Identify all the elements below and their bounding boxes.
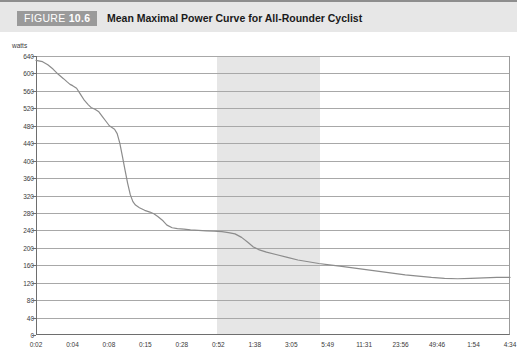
y-axis-tick-label: 40 xyxy=(4,315,34,322)
x-axis-tick-label: 1:38 xyxy=(248,341,261,348)
y-axis-tick-mark xyxy=(32,196,36,197)
y-axis-tick-mark xyxy=(32,318,36,319)
x-axis-tick-label: 49:46 xyxy=(429,341,445,348)
y-axis-tick-mark xyxy=(32,73,36,74)
x-axis-tick-label: 0:15 xyxy=(139,341,152,348)
x-axis-tick-label: 11:31 xyxy=(356,341,372,348)
y-axis-tick-mark xyxy=(32,143,36,144)
figure-header: FIGURE 10.6 Mean Maximal Power Curve for… xyxy=(0,0,517,34)
y-axis-tick-label: 640 xyxy=(4,53,34,60)
x-axis-tick-label: 5:49 xyxy=(321,341,334,348)
y-axis-tick-label: 520 xyxy=(4,105,34,112)
x-axis-tick-label: 0:04 xyxy=(66,341,79,348)
x-axis-labels: 0:020:040:080:150:280:521:383:055:4911:3… xyxy=(0,32,517,52)
y-axis-tick-label: 320 xyxy=(4,193,34,200)
x-axis-tick-label: 0:52 xyxy=(212,341,225,348)
y-axis-tick-label: 440 xyxy=(4,140,34,147)
y-axis-tick-label: 120 xyxy=(4,280,34,287)
figure-badge: FIGURE 10.6 xyxy=(17,11,97,26)
plot-region xyxy=(36,56,510,335)
y-axis-tick-label: 0 xyxy=(4,332,34,339)
x-axis-tick-label: 1:54 xyxy=(467,341,480,348)
y-axis-tick-label: 560 xyxy=(4,88,34,95)
y-axis-tick-mark xyxy=(32,265,36,266)
x-axis-tick-label: 0:08 xyxy=(103,341,116,348)
x-axis-tick-label: 0:28 xyxy=(176,341,189,348)
y-axis-tick-label: 400 xyxy=(4,158,34,165)
x-axis-tick-label: 3:05 xyxy=(285,341,298,348)
y-axis-tick-label: 480 xyxy=(4,123,34,130)
y-axis-tick-label: 80 xyxy=(4,297,34,304)
x-axis-tick-label: 0:02 xyxy=(30,341,43,348)
y-axis-tick-mark xyxy=(32,161,36,162)
figure-number-label: 10.6 xyxy=(69,12,91,24)
x-axis-tick-label: 23:56 xyxy=(392,341,408,348)
y-axis-tick-mark xyxy=(32,248,36,249)
y-axis-tick-label: 600 xyxy=(4,70,34,77)
y-axis-tick-mark xyxy=(32,108,36,109)
figure-container: FIGURE 10.6 Mean Maximal Power Curve for… xyxy=(0,0,517,355)
y-axis-tick-mark xyxy=(32,335,36,336)
x-axis-tick-label: 4:34 xyxy=(504,341,517,348)
y-axis-tick-label: 240 xyxy=(4,227,34,234)
y-axis-tick-mark xyxy=(32,178,36,179)
power-curve-svg xyxy=(36,56,510,335)
chart-area: watts 0408012016020024028032036040044048… xyxy=(0,32,517,355)
y-axis-tick-label: 200 xyxy=(4,245,34,252)
y-axis-labels: 0408012016020024028032036040044048052056… xyxy=(0,56,34,335)
y-axis-tick-label: 360 xyxy=(4,175,34,182)
y-axis-tick-label: 280 xyxy=(4,210,34,217)
y-axis-tick-mark xyxy=(32,230,36,231)
figure-title: Mean Maximal Power Curve for All-Rounder… xyxy=(107,11,362,26)
y-axis-tick-mark xyxy=(32,213,36,214)
y-axis-tick-mark xyxy=(32,283,36,284)
y-axis-tick-mark xyxy=(32,126,36,127)
y-axis-tick-mark xyxy=(32,56,36,57)
y-axis-tick-mark xyxy=(32,300,36,301)
y-axis-tick-mark xyxy=(32,91,36,92)
power-curve-line xyxy=(36,60,510,278)
y-axis-tick-label: 160 xyxy=(4,262,34,269)
figure-prefix-label: FIGURE xyxy=(24,12,65,24)
